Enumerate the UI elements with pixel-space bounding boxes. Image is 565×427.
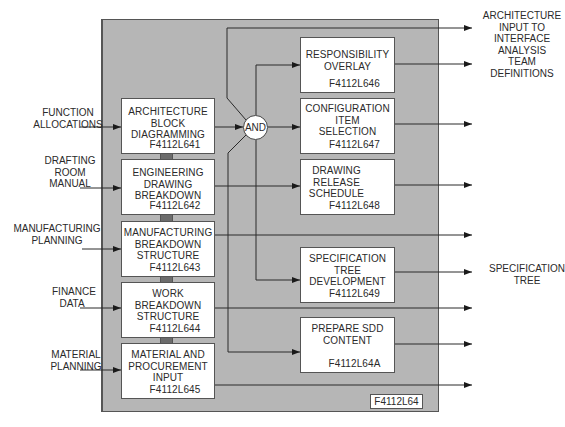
function-box-prepare-sdd-content: PREPARE SDD CONTENT F4112L64A <box>300 317 395 373</box>
function-code: F4112L641 <box>122 139 214 151</box>
function-title: WORK BREAKDOWN STRUCTURE <box>122 283 214 323</box>
function-code: F4112L646 <box>301 78 394 90</box>
input-label-function-allocations: FUNCTION ALLOCATIONS <box>28 107 108 130</box>
function-title: ENGINEERING DRAWING BREAKDOWN <box>122 160 214 202</box>
function-title: MATERIAL AND PROCUREMENT INPUT <box>122 344 214 384</box>
function-code: F4112L644 <box>122 323 214 335</box>
function-box-drawing-release-schedule: DRAWING RELEASE SCHEDULE F4112L648 <box>300 159 395 215</box>
function-title: SPECIFICATION TREE DEVELOPMENT <box>301 248 394 288</box>
function-code: F4112L645 <box>122 384 214 396</box>
input-label-finance-data: FINANCE DATA <box>52 286 92 309</box>
function-code: F4112L647 <box>301 139 394 151</box>
function-code: F4112L643 <box>122 262 214 274</box>
and-gate: AND <box>243 115 268 140</box>
function-title: DRAWING RELEASE SCHEDULE <box>301 160 394 200</box>
function-box-engineering-drawing-breakdown: ENGINEERING DRAWING BREAKDOWN F4112L642 <box>121 159 215 215</box>
function-box-specification-tree-development: SPECIFICATION TREE DEVELOPMENT F4112L649 <box>300 247 395 303</box>
input-label-material-planning: MATERIAL PLANNING <box>48 349 104 372</box>
function-box-architecture-block-diagramming: ARCHITECTURE BLOCK DIAGRAMMING F4112L641 <box>121 98 215 154</box>
function-box-responsibility-overlay: RESPONSIBILITY OVERLAY F4112L646 <box>300 37 395 93</box>
function-code: F4112L64A <box>301 358 394 370</box>
function-title: RESPONSIBILITY OVERLAY <box>301 38 394 72</box>
output-label-specification-tree: SPECIFICATION TREE <box>489 263 565 286</box>
function-title: PREPARE SDD CONTENT <box>301 318 394 346</box>
function-box-manufacturing-breakdown-structure: MANUFACTURING BREAKDOWN STRUCTURE F4112L… <box>121 221 215 277</box>
function-title: MANUFACTURING BREAKDOWN STRUCTURE <box>122 222 214 262</box>
function-box-material-and-procurement-input: MATERIAL AND PROCUREMENT INPUT F4112L645 <box>121 343 215 399</box>
function-code: F4112L642 <box>122 200 214 212</box>
function-box-configuration-item-selection: CONFIGURATION ITEM SELECTION F4112L647 <box>300 98 395 154</box>
function-title: CONFIGURATION ITEM SELECTION <box>301 99 394 138</box>
function-box-work-breakdown-structure: WORK BREAKDOWN STRUCTURE F4112L644 <box>121 282 215 338</box>
functional-flow-diagram: FUNCTION ALLOCATIONS DRAFTING ROOM MANUA… <box>0 0 565 427</box>
input-label-drafting-room-manual: DRAFTING ROOM MANUAL <box>40 155 100 190</box>
function-code: F4112L648 <box>301 200 394 212</box>
parent-function-code: F4112L64 <box>370 394 423 409</box>
output-label-architecture-input: ARCHITECTURE INPUT TO INTERFACE ANALYSIS… <box>478 10 565 79</box>
function-code: F4112L649 <box>301 288 394 300</box>
function-title: ARCHITECTURE BLOCK DIAGRAMMING <box>122 99 214 141</box>
input-label-manufacturing-planning: MANUFACTURING PLANNING <box>12 223 102 246</box>
